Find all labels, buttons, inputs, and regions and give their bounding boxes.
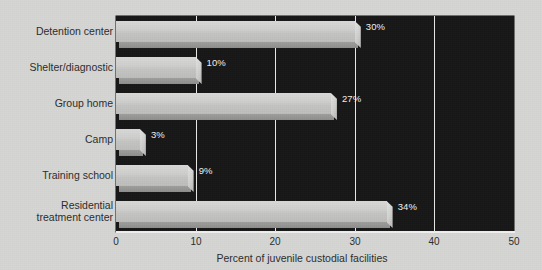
category-label: Training school [42,169,113,182]
bar [116,201,387,222]
bar [116,129,140,150]
bar [116,93,331,114]
bar-value-label: 30% [366,21,385,32]
bar-value-label: 27% [342,93,361,104]
bar [116,57,196,78]
bar-value-label: 10% [207,57,226,68]
category-label: Detention center [36,25,113,38]
bar-shadow-face [119,186,191,192]
bar-chart-figure: 30%10%27%3%9%34% Detention centerShelter… [0,0,542,270]
x-tick-40: 40 [414,236,454,247]
bar-value-label: 3% [151,129,165,140]
bar-shadow-face [119,78,199,84]
bar [116,21,355,42]
bar-shadow-face [119,42,358,48]
x-tick-20: 20 [255,236,295,247]
x-tick-10: 10 [176,236,216,247]
x-tick-30: 30 [335,236,375,247]
category-label: Group home [55,97,113,110]
bar [116,165,188,186]
category-label: Residential treatment center [37,199,113,224]
x-tick-0: 0 [96,236,136,247]
bar-value-label: 34% [398,201,417,212]
bar-value-label: 9% [199,165,213,176]
x-axis-label: Percent of juvenile custodial facilities [0,252,542,264]
bar-shadow-face [119,222,390,228]
category-label: Camp [85,133,113,146]
bar-shadow-face [119,150,143,156]
category-label: Shelter/diagnostic [30,61,113,74]
x-tick-50: 50 [494,236,534,247]
bar-shadow-face [119,114,334,120]
bar-row: 3% [0,124,542,160]
